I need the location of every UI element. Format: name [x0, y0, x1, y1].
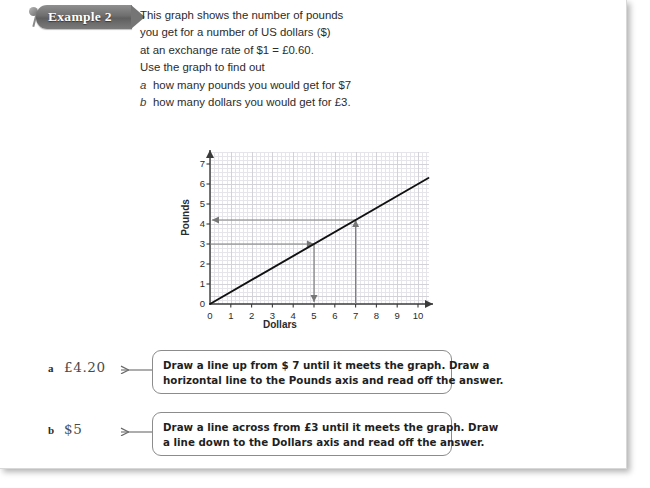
- x-tick-label-5: 5: [307, 310, 321, 321]
- callout-a-text: Draw a line up from $ 7 until it meets t…: [163, 358, 441, 387]
- problem-statement: This graph shows the number of pounds yo…: [140, 7, 440, 111]
- conversion-line: [210, 178, 428, 304]
- callout-b-text: Draw a line across from £3 until it meet…: [163, 420, 441, 449]
- y-axis-title: Pounds: [180, 199, 191, 236]
- y-tick-label-2: 2: [193, 258, 205, 269]
- question-b-label: b: [140, 94, 153, 111]
- question-b-text: how many dollars you would get for £3.: [153, 94, 351, 111]
- example-banner: Example 2: [28, 5, 146, 30]
- y-tick-label-0: 0: [193, 298, 205, 309]
- y-tick-label-4: 4: [193, 218, 205, 229]
- x-tick-label-2: 2: [245, 310, 259, 321]
- question-a: a how many pounds you would get for $7: [140, 77, 440, 94]
- textbook-page: Example 2 This graph shows the number of…: [0, 0, 627, 469]
- answer-b-letter: b: [48, 424, 54, 436]
- x-tick-label-6: 6: [328, 310, 342, 321]
- callout-a-line-2: horizontal line to the Pounds axis and r…: [163, 373, 441, 388]
- intro-line-1: This graph shows the number of pounds: [140, 7, 440, 24]
- x-tick-label-3: 3: [265, 310, 279, 321]
- y-tick-label-7: 7: [193, 158, 205, 169]
- intro-line-2: you get for a number of US dollars ($): [140, 24, 440, 41]
- y-tick-label-6: 6: [193, 178, 205, 189]
- answer-b-value: $5: [64, 421, 82, 437]
- y-tick-label-1: 1: [193, 278, 205, 289]
- x-tick-label-4: 4: [286, 310, 300, 321]
- answer-row-b: b $5 Draw a line across from £3 until it…: [0, 412, 626, 462]
- example-banner-label: Example 2: [48, 9, 138, 25]
- intro-line-4: Use the graph to find out: [140, 59, 440, 76]
- answer-row-a: a £4.20 Draw a line up from $ 7 until it…: [0, 350, 626, 400]
- question-a-text: how many pounds you would get for $7: [153, 77, 351, 94]
- callout-a: Draw a line up from $ 7 until it meets t…: [152, 350, 452, 394]
- answer-b-arrow-icon: [118, 426, 154, 438]
- answer-a-arrow-icon: [118, 364, 154, 376]
- y-tick-label-3: 3: [193, 238, 205, 249]
- x-tick-label-9: 9: [390, 310, 404, 321]
- plot-svg: [210, 152, 440, 327]
- x-tick-label-7: 7: [349, 310, 363, 321]
- x-tick-label-10: 10: [411, 310, 425, 321]
- y-tick-label-5: 5: [193, 198, 205, 209]
- answer-a-letter: a: [48, 362, 54, 374]
- callout-b-line-2: a line down to the Dollars axis and read…: [163, 435, 441, 450]
- intro-line-3: at an exchange rate of $1 = £0.60.: [140, 42, 440, 59]
- x-tick-label-8: 8: [369, 310, 383, 321]
- question-b: b how many dollars you would get for £3.: [140, 94, 440, 111]
- callout-a-line-1: Draw a line up from $ 7 until it meets t…: [163, 358, 441, 373]
- plot-area: 0 1 2 3 4 5 6 7 0 1 2 3 4 5 6 7 8 9 10: [210, 152, 429, 304]
- callout-b-line-1: Draw a line across from £3 until it meet…: [163, 420, 441, 435]
- conversion-graph: Pounds Dollars: [185, 148, 440, 333]
- question-a-label: a: [140, 77, 153, 94]
- x-tick-label-0: 0: [203, 310, 217, 321]
- callout-b: Draw a line across from £3 until it meet…: [152, 412, 452, 456]
- answer-a-value: £4.20: [64, 359, 106, 375]
- x-tick-label-1: 1: [224, 310, 238, 321]
